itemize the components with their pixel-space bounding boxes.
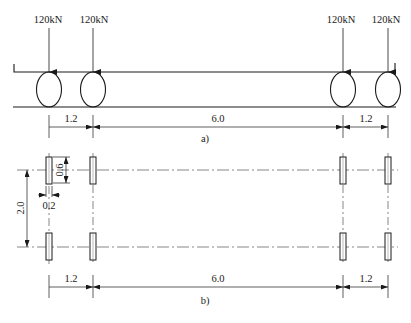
load-label-4: 120kN	[372, 14, 401, 25]
dim-wheel-width: 0.2	[42, 200, 55, 211]
dim-b-2: 6.0	[211, 273, 224, 284]
dim-wheel-length: 0.6	[54, 163, 65, 176]
wheel-icon	[81, 72, 106, 107]
dim-a-3: 1.2	[359, 113, 372, 124]
dim-a-1: 1.2	[64, 113, 77, 124]
load-arrows	[49, 28, 388, 72]
figure-a-elevation: 120kN 120kN 120kN 120kN	[13, 14, 401, 145]
dim-track-width: 2.0	[15, 201, 26, 214]
dim-b-3: 1.2	[359, 273, 372, 284]
caption-a: a)	[201, 133, 210, 145]
wheel-footprints	[46, 157, 391, 260]
load-label-1: 120kN	[34, 14, 63, 25]
wheels	[37, 72, 401, 107]
figure-b-plan: 2.0 0.6 0.2 1.2 6.0 1.2 b)	[15, 153, 398, 307]
vehicle-body	[14, 63, 395, 72]
load-label-3: 120kN	[327, 14, 356, 25]
load-label-2: 120kN	[80, 14, 109, 25]
vehicle-load-diagram: 120kN 120kN 120kN 120kN	[0, 0, 411, 323]
dim-b-1: 1.2	[64, 273, 77, 284]
wheel-icon	[37, 72, 62, 107]
wheel-icon	[331, 72, 356, 107]
caption-b: b)	[201, 295, 210, 307]
wheel-icon	[376, 72, 401, 107]
dim-a-2: 6.0	[211, 113, 224, 124]
